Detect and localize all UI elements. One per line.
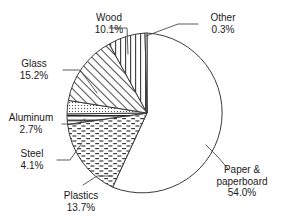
slice-label-steel-percent: 4.1% <box>8 160 56 172</box>
slice-label-paper-line2: paperboard <box>202 176 282 188</box>
slice-label-plastics: Plastics 13.7% <box>52 190 110 213</box>
slice-label-aluminum-percent: 2.7% <box>1 124 61 136</box>
slice-label-glass-percent: 15.2% <box>6 70 62 82</box>
slice-label-aluminum: Aluminum 2.7% <box>1 112 61 135</box>
slice-label-other: Other 0.3% <box>196 12 250 35</box>
slice-label-paper-paperboard: Paper & paperboard 54.0% <box>202 164 282 199</box>
slice-label-other-name: Other <box>196 12 250 24</box>
pie-slices-group <box>67 33 222 193</box>
pie-chart-figure: Wood 10.1% Other 0.3% Glass 15.2% Alumin… <box>0 0 286 221</box>
slice-label-wood-name: Wood <box>78 12 140 24</box>
slice-label-plastics-percent: 13.7% <box>52 202 110 214</box>
slice-label-glass-name: Glass <box>6 58 62 70</box>
slice-label-wood: Wood 10.1% <box>78 12 140 35</box>
slice-label-paper-line1: Paper & <box>202 164 282 176</box>
slice-label-paper-percent: 54.0% <box>202 187 282 199</box>
slice-label-steel: Steel 4.1% <box>8 148 56 171</box>
slice-label-steel-name: Steel <box>8 148 56 160</box>
slice-label-aluminum-name: Aluminum <box>1 112 61 124</box>
slice-label-plastics-name: Plastics <box>52 190 110 202</box>
slice-label-glass: Glass 15.2% <box>6 58 62 81</box>
slice-label-other-percent: 0.3% <box>196 24 250 36</box>
slice-label-wood-percent: 10.1% <box>78 24 140 36</box>
